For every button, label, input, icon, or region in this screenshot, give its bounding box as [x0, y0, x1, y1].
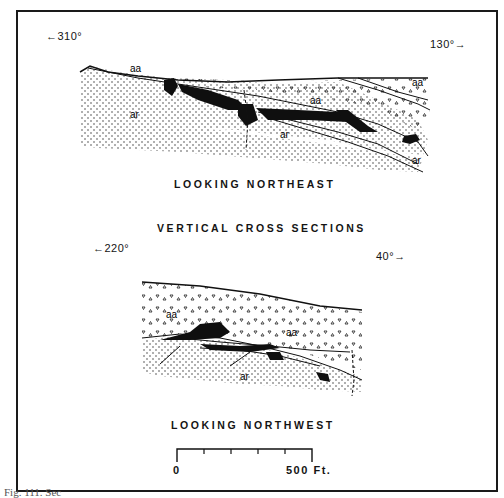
unit-label-aa: aa	[310, 95, 322, 106]
bearing-left-bottom: ←220°	[93, 242, 129, 254]
unit-label-ar: ar	[130, 109, 140, 120]
unit-label-ar: ar	[240, 371, 250, 382]
unit-label-aa: aa	[412, 77, 424, 88]
view-label-northwest: LOOKING NORTHWEST	[171, 419, 335, 431]
figure-title: VERTICAL CROSS SECTIONS	[157, 222, 366, 234]
unit-label-aa: aa	[286, 327, 298, 338]
figure-caption: Fig. 111. Sec	[4, 486, 61, 498]
bearing-right-top: 130°→	[430, 38, 466, 50]
unit-label-ar: ar	[412, 155, 422, 166]
cross-section-northwest: aa aa ar	[140, 280, 380, 410]
cross-section-northeast: aa aa aa ar ar ar	[78, 60, 438, 190]
scale-start-label: 0	[173, 464, 181, 476]
bearing-left-top: ←310°	[46, 30, 82, 42]
scale-end-label: 500 Ft.	[286, 464, 331, 476]
scale-bar	[175, 446, 317, 464]
unit-label-aa: aa	[130, 63, 142, 74]
bearing-right-bottom: 40°→	[376, 250, 406, 262]
unit-label-aa: aa	[166, 309, 178, 320]
view-label-northeast: LOOKING NORTHEAST	[174, 178, 335, 190]
unit-label-ar: ar	[280, 129, 290, 140]
